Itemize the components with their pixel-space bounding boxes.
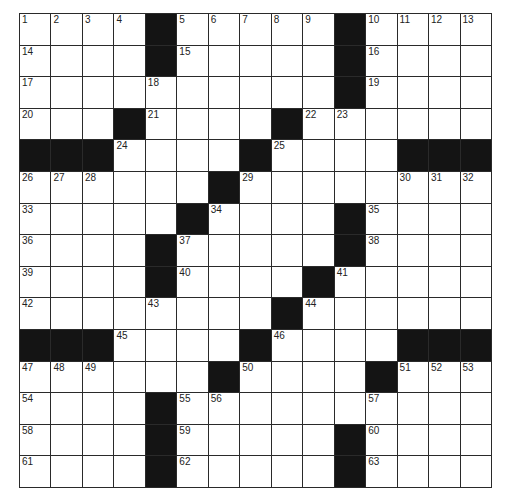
grid-cell[interactable]	[240, 425, 270, 456]
grid-cell[interactable]: 35	[366, 204, 396, 235]
grid-cell[interactable]: 56	[209, 393, 239, 424]
grid-cell[interactable]: 15	[177, 46, 207, 77]
grid-cell[interactable]: 13	[461, 14, 491, 45]
grid-cell[interactable]	[114, 204, 144, 235]
grid-cell[interactable]	[335, 393, 365, 424]
grid-cell[interactable]	[114, 235, 144, 266]
grid-cell[interactable]	[51, 298, 81, 329]
grid-cell[interactable]	[398, 425, 428, 456]
grid-cell[interactable]: 28	[83, 172, 113, 203]
grid-cell[interactable]: 11	[398, 14, 428, 45]
grid-cell[interactable]	[335, 298, 365, 329]
grid-cell[interactable]	[272, 172, 302, 203]
grid-cell[interactable]: 17	[20, 77, 50, 108]
grid-cell[interactable]	[303, 362, 333, 393]
grid-cell[interactable]	[303, 330, 333, 361]
grid-cell[interactable]	[303, 425, 333, 456]
grid-cell[interactable]	[398, 109, 428, 140]
grid-cell[interactable]: 3	[83, 14, 113, 45]
grid-cell[interactable]	[209, 140, 239, 171]
grid-cell[interactable]: 19	[366, 77, 396, 108]
grid-cell[interactable]: 41	[335, 267, 365, 298]
grid-cell[interactable]	[461, 298, 491, 329]
grid-cell[interactable]	[398, 77, 428, 108]
grid-cell[interactable]: 42	[20, 298, 50, 329]
grid-cell[interactable]	[146, 362, 176, 393]
grid-cell[interactable]: 33	[20, 204, 50, 235]
grid-cell[interactable]: 40	[177, 267, 207, 298]
grid-cell[interactable]	[83, 77, 113, 108]
grid-cell[interactable]	[146, 330, 176, 361]
grid-cell[interactable]	[398, 456, 428, 487]
grid-cell[interactable]	[303, 235, 333, 266]
grid-cell[interactable]	[272, 393, 302, 424]
grid-cell[interactable]: 59	[177, 425, 207, 456]
grid-cell[interactable]	[83, 267, 113, 298]
grid-cell[interactable]: 16	[366, 46, 396, 77]
grid-cell[interactable]	[366, 109, 396, 140]
grid-cell[interactable]	[83, 393, 113, 424]
grid-cell[interactable]	[83, 46, 113, 77]
grid-cell[interactable]: 5	[177, 14, 207, 45]
grid-cell[interactable]	[114, 298, 144, 329]
grid-cell[interactable]: 54	[20, 393, 50, 424]
grid-cell[interactable]: 63	[366, 456, 396, 487]
grid-cell[interactable]: 2	[51, 14, 81, 45]
grid-cell[interactable]	[461, 77, 491, 108]
grid-cell[interactable]	[429, 109, 459, 140]
grid-cell[interactable]	[51, 46, 81, 77]
grid-cell[interactable]	[429, 267, 459, 298]
grid-cell[interactable]	[83, 235, 113, 266]
grid-cell[interactable]	[335, 140, 365, 171]
grid-cell[interactable]	[335, 330, 365, 361]
grid-cell[interactable]	[240, 235, 270, 266]
grid-cell[interactable]	[272, 235, 302, 266]
grid-cell[interactable]	[272, 267, 302, 298]
grid-cell[interactable]	[429, 46, 459, 77]
grid-cell[interactable]: 32	[461, 172, 491, 203]
grid-cell[interactable]	[114, 425, 144, 456]
grid-cell[interactable]	[366, 140, 396, 171]
grid-cell[interactable]: 48	[51, 362, 81, 393]
grid-cell[interactable]: 24	[114, 140, 144, 171]
grid-cell[interactable]: 62	[177, 456, 207, 487]
grid-cell[interactable]: 38	[366, 235, 396, 266]
grid-cell[interactable]: 37	[177, 235, 207, 266]
grid-cell[interactable]	[240, 267, 270, 298]
grid-cell[interactable]	[303, 172, 333, 203]
grid-cell[interactable]: 46	[272, 330, 302, 361]
grid-cell[interactable]	[366, 172, 396, 203]
grid-cell[interactable]: 31	[429, 172, 459, 203]
grid-cell[interactable]: 22	[303, 109, 333, 140]
grid-cell[interactable]	[240, 393, 270, 424]
grid-cell[interactable]	[209, 77, 239, 108]
grid-cell[interactable]	[461, 267, 491, 298]
grid-cell[interactable]	[429, 456, 459, 487]
grid-cell[interactable]	[177, 140, 207, 171]
grid-cell[interactable]	[461, 109, 491, 140]
grid-cell[interactable]	[209, 235, 239, 266]
grid-cell[interactable]: 57	[366, 393, 396, 424]
grid-cell[interactable]	[240, 77, 270, 108]
grid-cell[interactable]: 6	[209, 14, 239, 45]
grid-cell[interactable]: 18	[146, 77, 176, 108]
grid-cell[interactable]	[303, 393, 333, 424]
grid-cell[interactable]	[240, 204, 270, 235]
grid-cell[interactable]: 43	[146, 298, 176, 329]
grid-cell[interactable]	[177, 362, 207, 393]
grid-cell[interactable]: 34	[209, 204, 239, 235]
grid-cell[interactable]	[114, 172, 144, 203]
grid-cell[interactable]: 9	[303, 14, 333, 45]
grid-cell[interactable]	[272, 456, 302, 487]
grid-cell[interactable]: 52	[429, 362, 459, 393]
grid-cell[interactable]	[114, 456, 144, 487]
grid-cell[interactable]: 45	[114, 330, 144, 361]
grid-cell[interactable]: 36	[20, 235, 50, 266]
grid-cell[interactable]	[272, 46, 302, 77]
grid-cell[interactable]	[51, 456, 81, 487]
grid-cell[interactable]	[51, 109, 81, 140]
grid-cell[interactable]	[177, 298, 207, 329]
grid-cell[interactable]	[209, 456, 239, 487]
grid-cell[interactable]	[461, 46, 491, 77]
grid-cell[interactable]	[240, 298, 270, 329]
